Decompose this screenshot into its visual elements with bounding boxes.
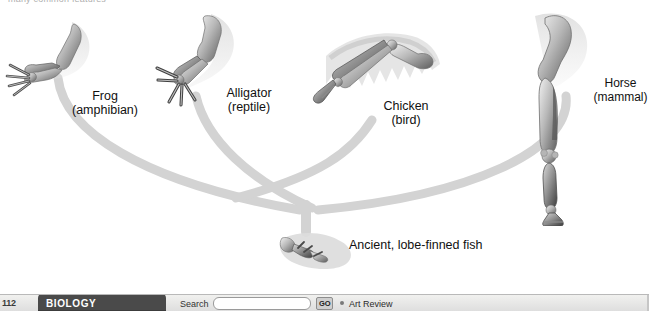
horse-foreleg-bones [505, 6, 615, 226]
label-chicken-group: (bird) [358, 113, 454, 127]
go-button[interactable]: GO [316, 297, 333, 310]
search-label: Search [180, 299, 209, 309]
label-frog: Frog (amphibian) [60, 89, 150, 117]
page-number: 112 [2, 298, 16, 308]
label-horse-group: (mammal) [592, 90, 649, 104]
figure-canvas: many common features [0, 0, 649, 311]
label-horse: Horse (mammal) [592, 76, 649, 104]
label-alligator: Alligator (reptile) [199, 86, 299, 114]
art-review-bullet-icon [340, 301, 344, 305]
label-chicken-name: Chicken [383, 99, 428, 113]
label-alligator-name: Alligator [226, 86, 271, 100]
bottom-toolbar: 112 BIOLOGY Search GO Art Review [0, 294, 649, 311]
lobe-finned-fish-fin [268, 222, 360, 274]
label-chicken: Chicken (bird) [358, 99, 454, 127]
book-tab[interactable]: BIOLOGY [38, 294, 166, 311]
label-frog-group: (amphibian) [60, 103, 150, 117]
label-frog-name: Frog [92, 89, 118, 103]
label-horse-name: Horse [604, 76, 636, 90]
go-button-label: GO [319, 299, 331, 308]
art-review-link[interactable]: Art Review [349, 299, 393, 309]
book-tab-label: BIOLOGY [46, 298, 96, 309]
search-input[interactable] [213, 297, 311, 310]
label-ancestor: Ancient, lobe-finned fish [349, 238, 529, 252]
chicken-wing-bones [300, 12, 450, 108]
label-alligator-group: (reptile) [199, 100, 299, 114]
